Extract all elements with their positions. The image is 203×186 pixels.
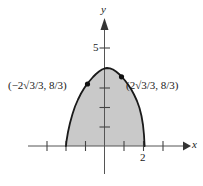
parabola-figure: y x 5 2 (−2√3/3, 8/3) (2√3/3, 8/3) xyxy=(0,0,203,186)
annotated-point-left xyxy=(85,81,90,86)
y-tick-label-5: 5 xyxy=(93,42,99,53)
figure-canvas xyxy=(0,0,203,186)
x-axis-arrow-icon xyxy=(183,142,191,151)
x-axis-label: x xyxy=(192,139,197,150)
x-tick-label-2: 2 xyxy=(140,152,146,163)
point-label-right: (2√3/3, 8/3) xyxy=(126,80,178,91)
point-label-left: (−2√3/3, 8/3) xyxy=(8,80,67,91)
y-axis-arrow-icon xyxy=(101,18,109,30)
annotated-point-right xyxy=(119,74,124,79)
y-axis-label: y xyxy=(101,4,106,15)
